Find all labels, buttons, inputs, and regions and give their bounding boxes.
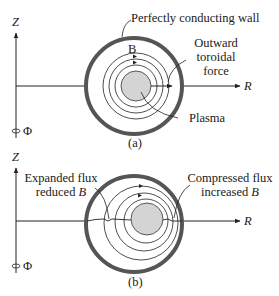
reduced-b-var: B <box>79 185 87 199</box>
force-label-line2-a: toroidal <box>188 51 244 64</box>
wall-leader-a <box>122 20 131 37</box>
phi-label-b: Φ <box>23 260 32 273</box>
caption-a: (a) <box>128 137 142 150</box>
field-label-a: B <box>128 43 136 56</box>
r-axis-label-a: R <box>244 80 252 93</box>
flux-arrow-icon-b-1 <box>139 184 143 188</box>
force-label-line1-a: Outward <box>188 37 244 50</box>
force-label-line3-a: force <box>188 65 244 78</box>
increased-b-var: B <box>251 185 259 199</box>
plasma-label-a: Plasma <box>189 112 225 125</box>
phi-label-a: Φ <box>23 125 32 138</box>
wall-label-a: Perfectly conducting wall <box>131 12 259 25</box>
reduced-b-text: reduced <box>36 185 79 199</box>
plasma-a <box>121 71 151 101</box>
increased-b-label: increased B <box>182 186 278 199</box>
flux-arrow-icon-b-2 <box>138 194 142 198</box>
caption-b: (b) <box>128 276 143 289</box>
z-axis-label-a: Z <box>12 16 19 29</box>
compressed-flux-label: Compressed flux <box>182 172 278 185</box>
z-axis-label-b: Z <box>12 151 19 164</box>
increased-b-text: increased <box>201 185 251 199</box>
flux-arrow-icon-a-2 <box>133 61 137 65</box>
reduced-b-label: reduced B <box>18 186 104 199</box>
expanded-flux-label: Expanded flux <box>18 172 104 185</box>
r-axis-label-b: R <box>244 215 252 228</box>
plasma-b <box>131 203 163 235</box>
